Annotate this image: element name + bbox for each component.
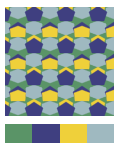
color-palette (5, 124, 114, 143)
pattern-title: Pattern (0, 0, 119, 2)
swatch-green (5, 124, 32, 143)
swatch-lightblue (87, 124, 114, 143)
swatch-navy (32, 124, 59, 143)
swatch-yellow (60, 124, 87, 143)
tiling-svg (5, 7, 114, 116)
tiling-pattern (5, 7, 114, 116)
